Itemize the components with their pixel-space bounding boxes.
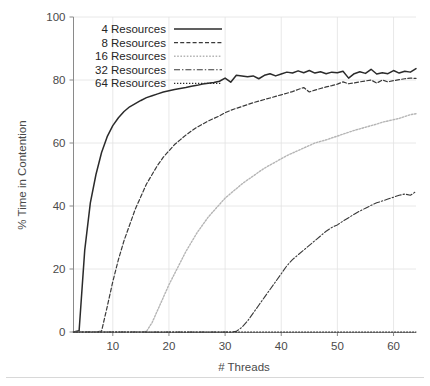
y-axis-title: % Time in Contention bbox=[16, 120, 28, 229]
line-chart: 020406080100 102030405060 4 Resources8 R… bbox=[0, 0, 430, 386]
legend-label-32-resources: 32 Resources bbox=[95, 64, 166, 76]
x-axis-title: # Threads bbox=[218, 361, 270, 373]
legend-label-64-resources: 64 Resources bbox=[95, 77, 166, 89]
x-tick-label: 50 bbox=[331, 340, 344, 352]
x-tick-label: 10 bbox=[106, 340, 119, 352]
chart-container: 020406080100 102030405060 4 Resources8 R… bbox=[0, 0, 430, 386]
x-tick-label: 30 bbox=[219, 340, 232, 352]
legend-label-16-resources: 16 Resources bbox=[95, 50, 166, 62]
y-tick-label: 20 bbox=[53, 263, 66, 275]
x-tick-label: 60 bbox=[387, 340, 400, 352]
y-tick-label: 0 bbox=[59, 326, 65, 338]
y-tick-label: 40 bbox=[53, 200, 66, 212]
y-tick-label: 60 bbox=[53, 137, 66, 149]
legend-label-8-resources: 8 Resources bbox=[101, 37, 166, 49]
y-tick-label: 100 bbox=[46, 11, 65, 23]
legend-label-4-resources: 4 Resources bbox=[101, 23, 166, 35]
y-tick-label: 80 bbox=[53, 74, 66, 86]
x-tick-label: 40 bbox=[275, 340, 288, 352]
x-tick-label: 20 bbox=[163, 340, 176, 352]
